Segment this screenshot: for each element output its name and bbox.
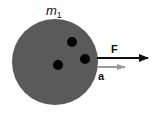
particle-dot bbox=[53, 60, 63, 70]
mass-label: m1 bbox=[46, 3, 62, 20]
particle-dot bbox=[67, 37, 77, 47]
diagram-canvas: m1 F a bbox=[0, 0, 161, 115]
particle-dot bbox=[80, 54, 90, 64]
force-label: F bbox=[111, 43, 118, 55]
mass-body bbox=[12, 19, 98, 105]
acceleration-label: a bbox=[98, 70, 105, 82]
